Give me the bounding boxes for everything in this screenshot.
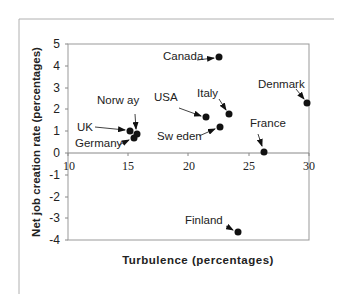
point-uk (127, 128, 134, 135)
y-axis-title: Net job creation rate (percentages) (30, 47, 42, 237)
arrow-france (258, 134, 262, 146)
point-usa (203, 114, 210, 121)
x-axis-title: Turbulence (percentages) (122, 254, 274, 266)
point-italy (226, 111, 233, 118)
arrow-usa (179, 108, 201, 116)
x-tick-label: 25 (243, 159, 255, 173)
y-tick-label: -4 (49, 233, 60, 247)
x-tick-label: 30 (303, 159, 315, 173)
label-sweden: Sw eden (157, 130, 202, 142)
x-tick-label: 20 (183, 159, 195, 173)
point-denmark (304, 100, 311, 107)
point-france (261, 149, 268, 156)
chart: 5 4 3 2 1 0 -1 -2 -3 -4 10 15 20 25 30 N… (0, 0, 351, 303)
label-italy: Italy (197, 87, 218, 99)
label-uk: UK (77, 121, 93, 133)
arrow-denmark (296, 89, 304, 99)
x-tick-labels: 10 15 20 25 30 (63, 159, 315, 173)
point-germany (131, 135, 138, 142)
y-tick-label: 1 (53, 124, 60, 138)
point-finland (235, 229, 242, 236)
arrow-uk (95, 127, 125, 130)
arrow-italy (219, 99, 226, 110)
label-usa: USA (154, 91, 178, 103)
y-tick-label: -1 (49, 168, 60, 182)
y-tick-label: 3 (53, 81, 60, 95)
y-tick-label: 4 (53, 59, 60, 73)
label-germany: Germany (75, 137, 123, 149)
point-sweden (217, 124, 224, 131)
y-tick-label: 5 (53, 37, 60, 51)
y-tick-label: -3 (49, 211, 60, 225)
point-canada (216, 54, 223, 61)
label-canada: Canada (163, 50, 204, 62)
arrow-finland (226, 226, 233, 230)
x-tick-label: 10 (63, 159, 75, 173)
label-finland: Finland (185, 214, 223, 226)
y-tick-label: 0 (53, 146, 60, 160)
y-tick-label: -2 (49, 190, 60, 204)
x-tick-label: 15 (122, 159, 134, 173)
y-tick-labels: 5 4 3 2 1 0 -1 -2 -3 -4 (49, 37, 60, 247)
label-france: France (250, 117, 286, 129)
label-denmark: Denmark (258, 78, 305, 90)
y-tick-label: 2 (53, 102, 60, 116)
label-norway: Norw ay (97, 94, 139, 106)
arrow-norway (135, 114, 136, 129)
point-labels: Canada USA Italy Sw eden Denmark France … (75, 50, 305, 226)
